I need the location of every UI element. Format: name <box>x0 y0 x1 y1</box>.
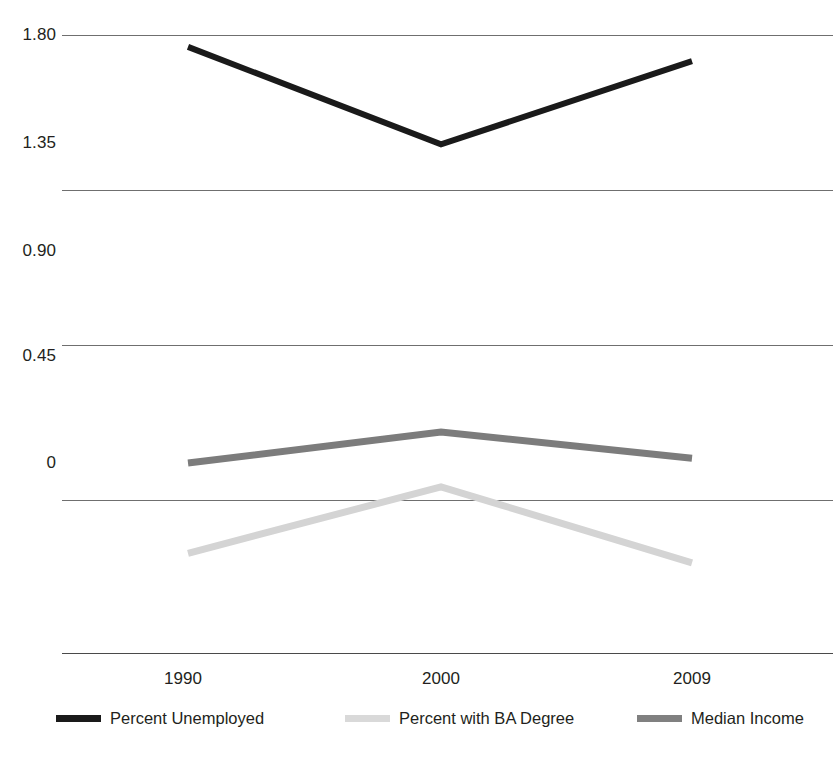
legend-label: Percent with BA Degree <box>399 710 574 727</box>
legend-label: Median Income <box>691 710 804 727</box>
legend-item[interactable]: Percent with BA Degree <box>345 706 574 730</box>
legend-swatch-icon <box>637 715 682 722</box>
x-axis-tick-label: 2009 <box>673 670 711 687</box>
series-line <box>188 47 692 144</box>
legend-item[interactable]: Median Income <box>637 706 804 730</box>
legend-swatch-icon <box>345 715 390 722</box>
series-line <box>188 487 692 563</box>
line-chart: 1.801.350.900.450 199020002009 Percent U… <box>0 0 833 757</box>
series-line <box>188 432 692 463</box>
legend-swatch-icon <box>56 715 101 722</box>
plot-area: 1.801.350.900.450 199020002009 <box>0 0 833 700</box>
legend-label: Percent Unemployed <box>110 710 264 727</box>
chart-legend: Percent UnemployedPercent with BA Degree… <box>0 706 833 746</box>
series-group <box>0 0 833 700</box>
legend-item[interactable]: Percent Unemployed <box>56 706 264 730</box>
x-axis-tick-label: 2000 <box>422 670 460 687</box>
x-axis-tick-label: 1990 <box>164 670 202 687</box>
